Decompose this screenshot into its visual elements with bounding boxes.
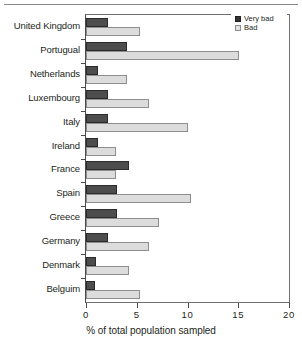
- bar-luxembourg-very-bad: [86, 90, 108, 99]
- y-axis-label-luxembourg: Luxembourg: [0, 93, 80, 103]
- bar-spain-very-bad: [86, 185, 117, 194]
- legend-label-very-bad: Very bad: [244, 15, 274, 23]
- x-axis-title: % of total population sampled: [0, 325, 302, 336]
- y-axis-tick: [81, 87, 86, 88]
- x-axis-tick-label-20: 20: [283, 309, 295, 320]
- y-axis-category-labels: United KingdomPortugualNetherlandsLuxemb…: [0, 14, 80, 303]
- bar-united-kingdom-very-bad: [86, 18, 108, 27]
- bar-germany-bad: [86, 242, 149, 251]
- x-axis-tick-label-0: 0: [83, 309, 89, 320]
- y-axis-tick: [81, 39, 86, 40]
- legend-item-bad: Bad: [235, 24, 284, 32]
- y-axis-label-netherlands: Netherlands: [0, 69, 80, 79]
- header-rule: [4, 4, 298, 5]
- bar-ireland-very-bad: [86, 138, 98, 147]
- bar-denmark-very-bad: [86, 257, 96, 266]
- y-axis-label-portugual: Portugual: [0, 45, 80, 55]
- bar-italy-bad: [86, 123, 188, 132]
- bar-belguim-bad: [86, 290, 140, 299]
- y-axis-tick: [81, 159, 86, 160]
- y-axis-tick: [81, 206, 86, 207]
- bar-denmark-bad: [86, 266, 129, 275]
- legend-swatch-very-bad-icon: [235, 16, 241, 22]
- x-axis-tick-label-5: 5: [134, 309, 140, 320]
- chart-legend: Very bad Bad: [231, 12, 287, 36]
- bar-ireland-bad: [86, 147, 116, 156]
- bar-greece-bad: [86, 218, 159, 227]
- y-axis-label-denmark: Denmark: [0, 260, 80, 270]
- bar-netherlands-very-bad: [86, 66, 98, 75]
- bar-chart-figure: United KingdomPortugualNetherlandsLuxemb…: [0, 0, 302, 346]
- y-axis-label-germany: Germany: [0, 236, 80, 246]
- y-axis-tick: [81, 182, 86, 183]
- x-axis-tick-5: [137, 303, 138, 308]
- y-axis-tick: [81, 230, 86, 231]
- bar-portugual-bad: [86, 51, 239, 60]
- y-axis-label-italy: Italy: [0, 117, 80, 127]
- y-axis-label-ireland: Ireland: [0, 141, 80, 151]
- bar-spain-bad: [86, 194, 191, 203]
- bar-belguim-very-bad: [86, 281, 95, 290]
- y-axis-tick: [81, 254, 86, 255]
- x-axis-tick-label-10: 10: [182, 309, 194, 320]
- bars-area: [86, 15, 289, 302]
- bar-italy-very-bad: [86, 114, 108, 123]
- y-axis-label-united-kingdom: United Kingdom: [0, 21, 80, 31]
- bar-france-bad: [86, 170, 116, 179]
- y-axis-label-greece: Greece: [0, 212, 80, 222]
- bar-france-very-bad: [86, 161, 129, 170]
- x-axis-tick-20: [289, 303, 290, 308]
- x-axis-tick-10: [188, 303, 189, 308]
- y-axis-tick: [81, 278, 86, 279]
- y-axis-label-spain: Spain: [0, 188, 80, 198]
- legend-label-bad: Bad: [244, 24, 257, 32]
- x-axis-tick-0: [86, 303, 87, 308]
- bar-portugual-very-bad: [86, 42, 127, 51]
- bar-germany-very-bad: [86, 233, 108, 242]
- x-axis-tick-label-15: 15: [232, 309, 244, 320]
- bar-greece-very-bad: [86, 209, 117, 218]
- y-axis-tick: [81, 135, 86, 136]
- y-axis-label-france: France: [0, 164, 80, 174]
- y-axis-tick: [81, 111, 86, 112]
- bar-netherlands-bad: [86, 75, 127, 84]
- y-axis-label-belguim: Belguim: [0, 284, 80, 294]
- legend-swatch-bad-icon: [235, 25, 241, 31]
- legend-item-very-bad: Very bad: [235, 15, 284, 23]
- x-axis-tick-15: [238, 303, 239, 308]
- y-axis-tick: [81, 63, 86, 64]
- bar-luxembourg-bad: [86, 99, 149, 108]
- bar-united-kingdom-bad: [86, 27, 140, 36]
